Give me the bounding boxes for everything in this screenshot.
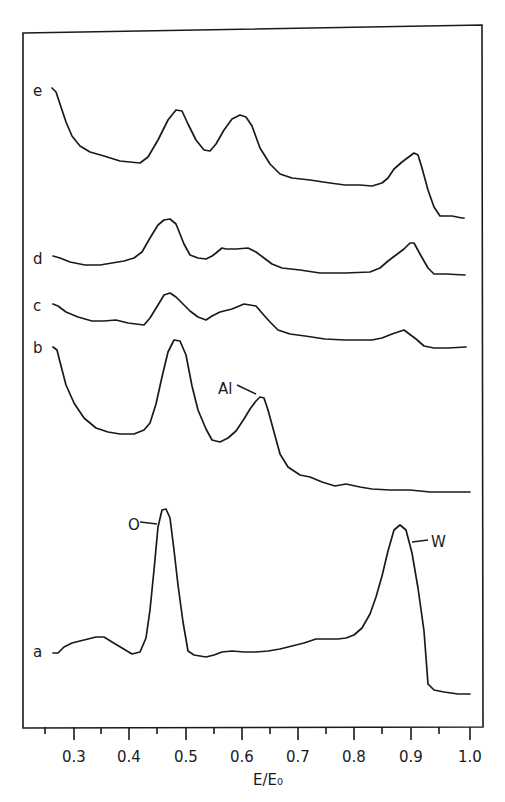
x-axis-label: E/E₀ (253, 771, 283, 789)
curve-label-a: a (33, 643, 42, 661)
tick-label: 0.3 (62, 748, 86, 766)
curve-label-c: c (33, 297, 41, 315)
tick-label: 0.7 (286, 748, 310, 766)
curve-label-b: b (33, 339, 43, 357)
tick-label: 0.4 (117, 748, 141, 766)
annotation-w: W (431, 533, 446, 551)
tick-label: 0.5 (174, 748, 198, 766)
tick-label: 0.8 (342, 748, 366, 766)
spectra-chart: 0.30.40.50.60.70.80.91.0 E/E₀ edcba OWAl (0, 0, 505, 802)
annotation-o: O (128, 516, 140, 534)
curve-label-e: e (33, 82, 42, 100)
tick-label: 1.0 (458, 748, 482, 766)
curve-label-d: d (33, 250, 43, 268)
tick-label: 0.9 (399, 748, 423, 766)
tick-label: 0.6 (230, 748, 254, 766)
background (0, 0, 505, 802)
annotation-al: Al (218, 380, 232, 398)
